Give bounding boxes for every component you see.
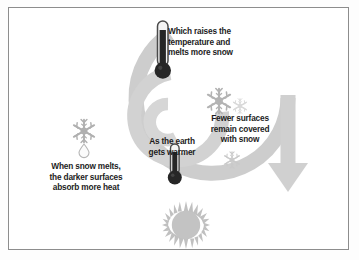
snowflake-small-icon (233, 99, 246, 114)
diagram-canvas: Which raises the temperature and melts m… (0, 0, 359, 260)
step-label-fewer-surfaces: Fewer surfaces remain covered with snow (194, 113, 286, 145)
step-label-raises-temperature: Which raises the temperature and melts m… (168, 26, 256, 58)
snowflake-icon (208, 89, 231, 114)
water-drop-icon (79, 144, 89, 158)
spiral-arrow-icon (268, 163, 308, 192)
step-label-earth-warmer: As the earth gets warmer (139, 136, 205, 157)
snowflake-faded-icon (225, 152, 240, 168)
melting-snowflake-icon (74, 120, 95, 158)
sun-icon (162, 201, 210, 249)
step-label-snow-melts: When snow melts, the darker surfaces abs… (36, 161, 135, 193)
